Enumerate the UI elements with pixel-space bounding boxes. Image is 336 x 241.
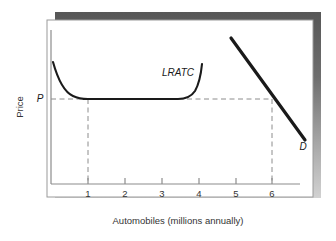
y-axis-title: Price [14, 96, 25, 118]
x-tick-label-4: 4 [196, 188, 201, 199]
chart-figure: 1 2 3 4 5 6 LRATC D P Price Automobiles … [0, 0, 336, 241]
x-tick-label-6: 6 [269, 188, 274, 199]
demand-curve-label: D [299, 141, 306, 152]
lratc-curve-label: LRATC [162, 67, 195, 78]
chart-panel [47, 20, 313, 197]
x-tick-label-3: 3 [159, 188, 164, 199]
x-tick-label-2: 2 [122, 188, 127, 199]
x-axis-title: Automobiles (millions annually) [113, 215, 244, 226]
x-tick-label-1: 1 [85, 188, 90, 199]
x-tick-label-5: 5 [233, 188, 238, 199]
price-axis-label: P [37, 93, 44, 104]
